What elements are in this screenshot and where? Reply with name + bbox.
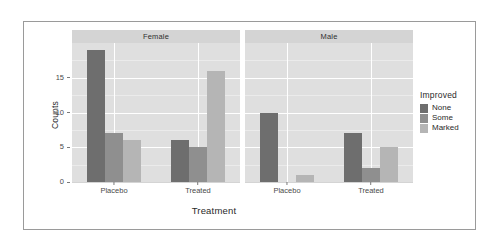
- legend: Improved NoneSomeMarked: [420, 90, 478, 133]
- y-axis-tick: 10: [36, 108, 70, 118]
- bar: [380, 147, 398, 182]
- x-axis-tick-label: Treated: [358, 186, 384, 195]
- facet-panel-male: Male PlaceboTreated: [245, 30, 413, 190]
- y-axis-tick: 5: [36, 142, 70, 152]
- legend-item: Some: [420, 113, 478, 123]
- x-axis-tick-label: Placebo: [100, 186, 127, 195]
- legend-color-swatch: [420, 114, 428, 123]
- legend-items: NoneSomeMarked: [420, 103, 478, 133]
- plot-area: [245, 43, 413, 182]
- bar: [171, 140, 189, 182]
- bar: [296, 175, 314, 182]
- legend-item-label: None: [432, 103, 451, 113]
- y-axis-tick-mark: [67, 182, 70, 183]
- x-axis-ticks: PlaceboTreated: [245, 182, 413, 202]
- legend-title: Improved: [420, 90, 478, 100]
- y-axis-tick-label: 10: [56, 108, 64, 118]
- y-axis-tick-label: 0: [60, 177, 64, 187]
- x-axis-tick: Treated: [358, 182, 384, 195]
- x-axis-tick: Placebo: [100, 182, 127, 195]
- x-axis-title: Treatment: [24, 205, 404, 216]
- bar: [260, 113, 278, 183]
- x-axis-tick-label: Placebo: [273, 186, 300, 195]
- gridline-vertical: [371, 43, 372, 182]
- y-axis-tick: 15: [36, 73, 70, 83]
- x-axis-ticks: PlaceboTreated: [72, 182, 240, 202]
- plot-area: [72, 43, 240, 182]
- y-axis: 051015: [36, 30, 70, 190]
- y-axis-tick: 0: [36, 177, 70, 187]
- x-axis-tick: Treated: [185, 182, 211, 195]
- legend-item: Marked: [420, 123, 478, 133]
- x-axis-tick-label: Treated: [185, 186, 211, 195]
- x-axis-tick-mark: [197, 182, 198, 185]
- y-axis-tick-label: 5: [60, 142, 64, 152]
- legend-item-label: Some: [432, 113, 453, 123]
- bar: [105, 133, 123, 182]
- legend-color-swatch: [420, 124, 428, 133]
- gridline-vertical: [287, 43, 288, 182]
- x-axis-tick: Placebo: [273, 182, 300, 195]
- x-axis-tick-mark: [113, 182, 114, 185]
- gridline-minor: [245, 60, 413, 61]
- bar: [344, 133, 362, 182]
- gridline-major: [245, 78, 413, 79]
- legend-item-label: Marked: [432, 123, 459, 133]
- bar: [362, 168, 380, 182]
- bar: [207, 71, 225, 182]
- bar: [87, 50, 105, 182]
- chart-figure: Counts 051015 Female PlaceboTreated Male…: [23, 21, 476, 230]
- bar: [123, 140, 141, 182]
- legend-color-swatch: [420, 104, 428, 113]
- y-axis-tick-mark: [67, 77, 70, 78]
- facet-strip-label: Female: [72, 30, 240, 43]
- legend-item: None: [420, 103, 478, 113]
- facet-strip-label: Male: [245, 30, 413, 43]
- bar: [189, 147, 207, 182]
- x-axis-tick-mark: [286, 182, 287, 185]
- y-axis-tick-label: 15: [56, 73, 64, 83]
- facet-panel-female: Female PlaceboTreated: [72, 30, 240, 190]
- y-axis-tick-mark: [67, 112, 70, 113]
- gridline-minor: [245, 95, 413, 96]
- y-axis-tick-mark: [67, 147, 70, 148]
- x-axis-tick-mark: [370, 182, 371, 185]
